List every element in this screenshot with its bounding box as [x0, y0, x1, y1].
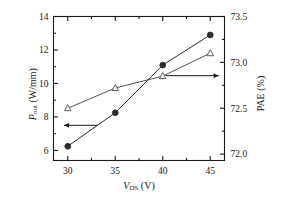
x-axis-subscript: DS: [129, 184, 138, 192]
data-point-pout: [112, 110, 118, 116]
x-tick-label: 40: [158, 166, 168, 176]
y-axis-left-unit: (W/mm): [27, 68, 38, 102]
y-axis-right-title: PAE (%): [255, 34, 266, 154]
y-tick-label: 8: [44, 112, 49, 122]
plot-area: 303540456810121472.072.573.073.5: [0, 0, 282, 200]
annotation-left-arrow-head: [64, 123, 69, 128]
data-point-pae: [160, 73, 166, 79]
y-axis-right-symbol: PAE: [255, 93, 266, 111]
y2-tick-label: 72.0: [231, 149, 248, 159]
data-point-pout: [65, 143, 71, 149]
series-pae-line: [68, 53, 211, 108]
y-axis-right-unit: (%): [255, 76, 266, 91]
annotation-right-arrow-head: [214, 73, 219, 78]
y-axis-left-symbol: P: [27, 114, 38, 120]
y2-tick-label: 73.0: [231, 58, 248, 68]
x-tick-label: 35: [111, 166, 121, 176]
x-axis-title: VDS (V): [98, 180, 180, 192]
x-axis-unit: (V): [141, 180, 155, 191]
x-tick-label: 30: [63, 166, 73, 176]
y2-tick-label: 73.5: [231, 12, 248, 22]
data-point-pae: [207, 50, 213, 56]
y-axis-left-title: Pout (W/mm): [27, 34, 39, 154]
data-point-pout: [160, 62, 166, 68]
chart-figure: 303540456810121472.072.573.073.5 Pout (W…: [0, 0, 282, 200]
y2-tick-label: 72.5: [231, 104, 248, 114]
y-tick-label: 6: [44, 146, 49, 156]
x-tick-label: 45: [206, 166, 216, 176]
data-point-pout: [207, 32, 213, 38]
y-axis-left-subscript: out: [31, 105, 39, 114]
y-tick-label: 14: [39, 12, 49, 22]
y-tick-label: 10: [39, 79, 49, 89]
y-tick-label: 12: [39, 45, 49, 55]
series-pout-line: [68, 35, 211, 146]
